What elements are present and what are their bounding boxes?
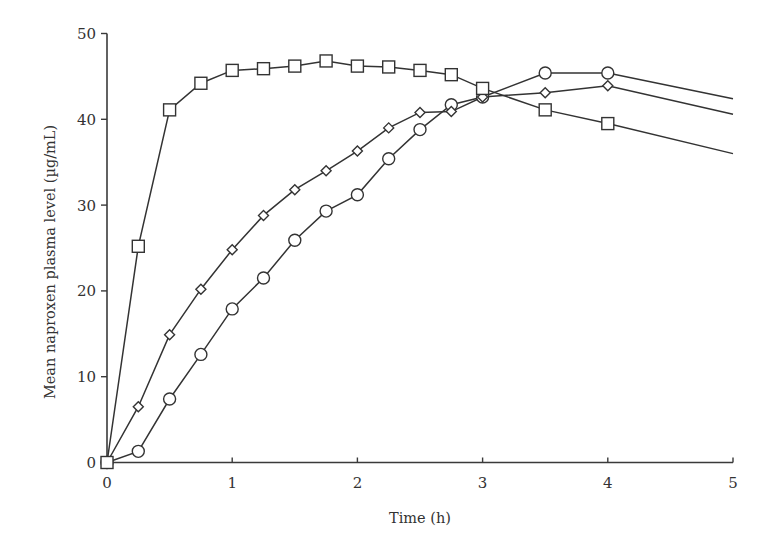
- x-tick-label: 0: [102, 474, 112, 492]
- series-markers-square: [101, 55, 614, 469]
- data-point-square: [351, 60, 363, 72]
- data-point-square: [258, 63, 270, 75]
- series-lines: [107, 61, 733, 463]
- y-tick-label: 20: [77, 282, 96, 300]
- data-point-circle: [164, 393, 176, 405]
- data-point-circle: [132, 445, 144, 457]
- data-point-circle: [351, 189, 363, 201]
- x-tick-label: 1: [227, 474, 237, 492]
- data-point-circle: [414, 124, 426, 136]
- data-point-circle: [289, 234, 301, 246]
- axes: [107, 34, 733, 463]
- data-point-diamond: [133, 402, 143, 412]
- x-axis-title: Time (h): [389, 510, 451, 526]
- series-line-square: [107, 61, 733, 463]
- data-point-circle: [602, 67, 614, 79]
- chart: 012345 01020304050 Time (h) Mean naproxe…: [0, 0, 768, 553]
- data-point-square: [320, 55, 332, 67]
- data-point-square: [383, 61, 395, 73]
- data-point-square: [414, 64, 426, 76]
- data-point-diamond: [321, 166, 331, 176]
- y-tick-label: 10: [77, 368, 96, 386]
- y-tick-label: 0: [86, 454, 96, 472]
- y-axis-title: Mean naproxen plasma level (µg/mL): [42, 125, 58, 399]
- x-tick-label: 4: [603, 474, 613, 492]
- x-tick-label: 3: [478, 474, 488, 492]
- data-point-diamond: [540, 88, 550, 98]
- y-tick-label: 40: [77, 111, 96, 129]
- data-point-square: [195, 77, 207, 89]
- data-point-square: [602, 118, 614, 130]
- data-point-diamond: [603, 81, 613, 91]
- data-point-square: [132, 240, 144, 252]
- series-markers: [101, 55, 614, 469]
- data-point-circle: [258, 272, 270, 284]
- data-point-circle: [383, 153, 395, 165]
- data-point-diamond: [165, 330, 175, 340]
- data-point-square: [539, 104, 551, 116]
- y-ticks: 01020304050: [77, 25, 107, 472]
- x-tick-label: 2: [353, 474, 363, 492]
- data-point-square: [289, 60, 301, 72]
- x-tick-label: 5: [728, 474, 738, 492]
- series-line-diamond: [107, 86, 733, 463]
- data-point-square: [101, 457, 113, 469]
- data-point-square: [477, 82, 489, 94]
- series-markers-diamond: [102, 81, 613, 468]
- data-point-diamond: [415, 107, 425, 117]
- data-point-square: [164, 104, 176, 116]
- y-tick-label: 50: [77, 25, 96, 43]
- y-tick-label: 30: [77, 197, 96, 215]
- data-point-circle: [539, 67, 551, 79]
- data-point-circle: [226, 303, 238, 315]
- data-point-circle: [195, 348, 207, 360]
- data-point-square: [445, 69, 457, 81]
- data-point-circle: [320, 205, 332, 217]
- series-markers-circle: [101, 67, 614, 469]
- data-point-square: [226, 64, 238, 76]
